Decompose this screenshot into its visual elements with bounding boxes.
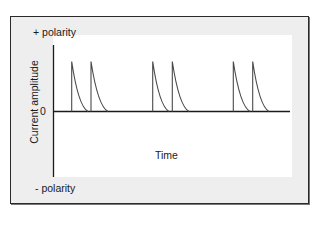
y-axis-label: Current amplitude [29,60,40,143]
pulse-spikes [72,62,269,112]
x-axis-label: Time [155,150,178,161]
negative-polarity-label: - polarity [35,183,75,194]
spike [91,62,108,112]
spike [72,62,88,112]
positive-polarity-label: + polarity [33,27,76,38]
spike [153,62,169,112]
spike [253,62,269,112]
zero-tick-label: 0 [40,106,46,117]
spike [233,62,250,112]
spike [172,62,189,112]
